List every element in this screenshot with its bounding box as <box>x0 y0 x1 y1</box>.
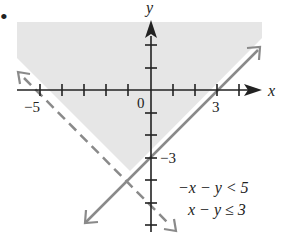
inequality-graph: • y x 0 −5 3 −3 −x − y < 5 x − y ≤ 3 <box>0 0 285 241</box>
inequality-1: −x − y < 5 <box>178 179 249 197</box>
y-axis-label: y <box>144 0 154 17</box>
y-tick-label-neg3: −3 <box>160 150 176 166</box>
x-axis-label: x <box>267 82 275 99</box>
origin-label: 0 <box>137 95 145 111</box>
inequality-2: x − y ≤ 3 <box>187 201 246 219</box>
x-tick-label-neg5: −5 <box>24 99 40 115</box>
problem-marker: • <box>0 4 8 29</box>
x-tick-label-3: 3 <box>212 99 220 115</box>
